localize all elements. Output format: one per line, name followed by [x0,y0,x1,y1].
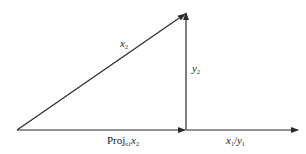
x2-vector [17,14,185,130]
y2-label: y2 [192,63,200,75]
vector-diagram [0,0,306,154]
x2-label: x2 [120,38,128,50]
projection-label: Projx1x2 [107,135,139,147]
x1-y1-label: x1/y1 [226,135,245,147]
